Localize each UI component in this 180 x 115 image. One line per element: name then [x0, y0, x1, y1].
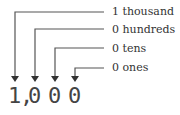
arrowhead-icon	[71, 76, 79, 82]
digit-hundreds: 0	[28, 84, 41, 108]
label-hundreds: 0 hundreds	[112, 24, 175, 36]
arrow-tens	[55, 48, 104, 76]
arrowhead-icon	[31, 76, 39, 82]
arrow-hundreds	[35, 29, 104, 76]
arrowhead-icon	[51, 76, 59, 82]
label-ones: 0 ones	[112, 62, 148, 74]
place-value-diagram: 1 thousand 0 hundreds 0 tens 0 ones 1 , …	[0, 0, 180, 115]
digit-tens: 0	[48, 84, 61, 108]
arrowhead-icon	[11, 76, 19, 82]
arrow-thousand	[15, 12, 104, 76]
digit-ones: 0	[68, 84, 81, 108]
arrow-ones	[75, 68, 104, 76]
label-thousand: 1 thousand	[112, 6, 174, 18]
label-tens: 0 tens	[112, 43, 146, 55]
